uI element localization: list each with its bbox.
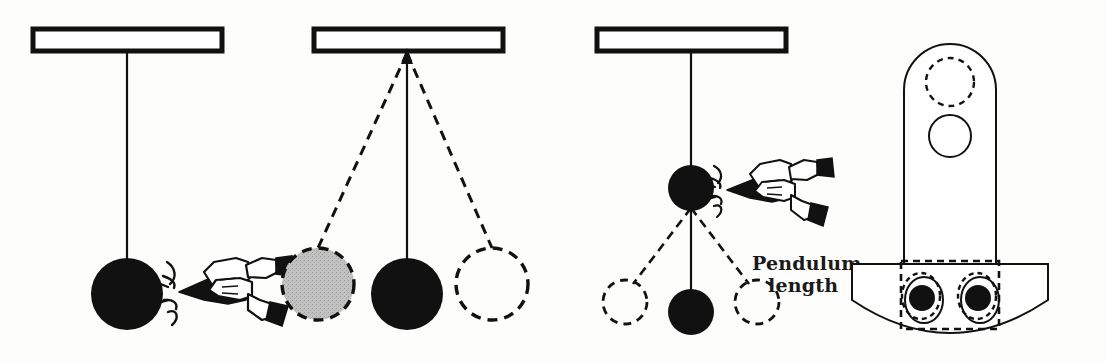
panel-3-short-pendulum-being-flicked: Pendulum length [597,29,862,335]
panel-2-bob-solid [371,258,443,330]
panel-3-support-bar [597,29,786,51]
panel-2-long-pendulum-swinging [282,29,528,330]
panel-1-bob-solid [91,258,163,330]
panel-2-bob-gray-dashed [282,248,354,320]
panel-3-dashed-rod-right [691,208,749,284]
panel-3-bob-lower-solid [668,289,714,335]
panel-4-stem [904,44,996,265]
panel-3-hand-icon [727,158,834,226]
pendulum-figure: Pendulum length [0,0,1106,362]
panel-2-dashed-rod-right [407,53,492,248]
panel-2-support-bar [314,29,503,51]
panel-2-bob-outline-dashed [456,248,528,320]
panel-1-long-pendulum-at-rest [33,29,294,330]
panel-4-metronome-weight-assembly [852,44,1048,333]
panel-4-base [852,264,1048,333]
panel-3-dashed-rod-left [633,208,691,284]
panel-3-bob-upper-solid [668,165,714,211]
panel-1-hand-icon [179,256,294,326]
pendulum-diagram-canvas: Pendulum length [0,0,1106,362]
panel-3-bob-left-dashed [603,280,647,324]
panel-1-support-bar [33,29,222,51]
panel-2-dashed-rod-left [318,53,407,248]
pendulum-length-label-line2: length [768,274,838,296]
pendulum-length-label-line1: Pendulum [752,252,862,274]
